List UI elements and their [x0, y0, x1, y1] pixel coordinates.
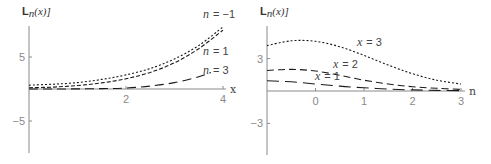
y-tick-label: 3 — [257, 53, 263, 65]
chart-panel-right: 3−30123nLn(x)]x= 3x= 2x= 1 — [245, 0, 491, 164]
curve-x-3 — [267, 40, 461, 84]
line-chart-ln-vs-x: 5−524xLn(x)]n= −1n= 1n= 3 — [0, 0, 245, 164]
x-tick-label: 1 — [361, 95, 367, 107]
curve-label: x= 3 — [356, 35, 382, 49]
curve-label: x= 1 — [314, 69, 340, 83]
x-tick-label: 3 — [458, 95, 464, 107]
y-tick-label: −3 — [250, 117, 263, 129]
y-tick-label: 5 — [19, 51, 25, 63]
y-axis-label: Ln(x)] — [260, 5, 289, 19]
x-tick-label: 0 — [312, 95, 318, 107]
curve-label: x= 2 — [332, 57, 358, 71]
curve-x-2 — [267, 69, 461, 89]
curve-n-1 — [29, 27, 223, 85]
y-tick-label: −5 — [12, 115, 25, 127]
x-tick-label: 4 — [220, 93, 226, 105]
x-tick-label: 2 — [123, 93, 129, 105]
curve-label: n= 3 — [203, 63, 229, 77]
line-chart-ln-vs-n: 3−30123nLn(x)]x= 3x= 2x= 1 — [245, 0, 491, 164]
x-axis-label: n — [469, 85, 476, 98]
x-tick-label: 2 — [409, 95, 415, 107]
y-axis-label: Ln(x)] — [22, 5, 51, 19]
curve-label: n= 1 — [203, 44, 229, 58]
chart-panel-left: 5−524xLn(x)]n= −1n= 1n= 3 — [0, 0, 245, 164]
curve-n-1 — [29, 30, 223, 88]
curve-label: n= −1 — [203, 7, 235, 21]
x-axis-label: x — [230, 83, 237, 96]
